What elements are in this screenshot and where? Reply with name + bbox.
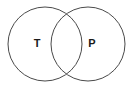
diagram-background <box>0 0 133 88</box>
venn-diagram-canvas: T P <box>0 0 133 88</box>
venn-label-t: T <box>34 37 41 49</box>
venn-label-p: P <box>88 37 95 49</box>
venn-diagram: T P <box>0 0 133 88</box>
